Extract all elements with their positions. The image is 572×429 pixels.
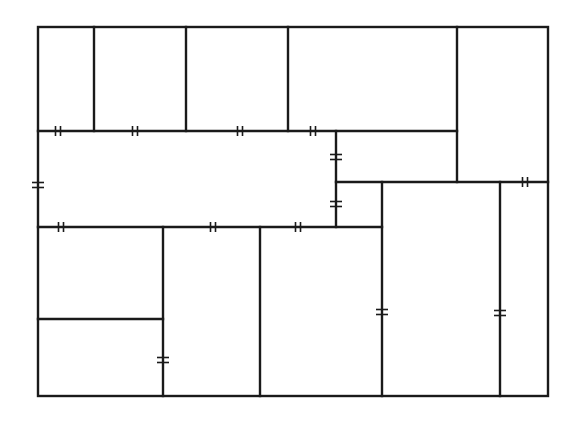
outer-wall bbox=[38, 27, 548, 396]
interior-walls bbox=[38, 27, 548, 396]
floor-plan-diagram bbox=[0, 0, 572, 429]
door-markers bbox=[32, 126, 528, 363]
